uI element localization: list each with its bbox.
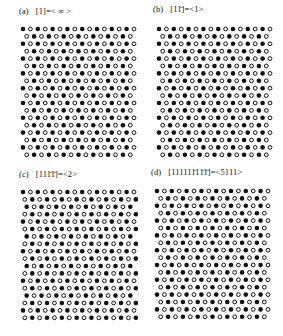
panel-c-notation: [111̄1̄]=<2> (36, 169, 77, 179)
panel-a-notation: [1]=< ∞ > (36, 6, 72, 16)
panel-d: (d)[111111̄11̄1̄]=<5111> (151, 167, 275, 319)
panel-d-lattice (154, 188, 272, 336)
panel-a: (a)[1]=< ∞ > (19, 6, 137, 154)
panel-a-caption: (a)[1]=< ∞ > (19, 6, 71, 16)
panel-c-caption: (c)[111̄1̄]=<2> (19, 169, 77, 179)
panel-b-caption: (b)[11̄]=<1> (153, 4, 204, 14)
panel-a-index: (a) (19, 6, 29, 16)
panel-b: (b)[11̄]=<1> (153, 4, 273, 154)
panel-d-index: (d) (151, 167, 161, 177)
panel-b-index: (b) (153, 4, 163, 14)
panel-d-caption: (d)[111111̄11̄1̄]=<5111> (151, 167, 242, 177)
panel-a-lattice (20, 26, 138, 174)
panel-d-notation: [111111̄11̄1̄]=<5111> (168, 167, 242, 177)
panel-c: (c)[111̄1̄]=<2> (19, 169, 137, 319)
panel-c-lattice (20, 189, 138, 336)
panel-c-index: (c) (19, 169, 29, 179)
panel-b-lattice (156, 26, 274, 174)
lattice-figure: (a)[1]=< ∞ > (b)[11̄]=<1> (c)[111̄1̄]=<2… (0, 0, 283, 336)
panel-b-notation: [11̄]=<1> (170, 4, 203, 14)
